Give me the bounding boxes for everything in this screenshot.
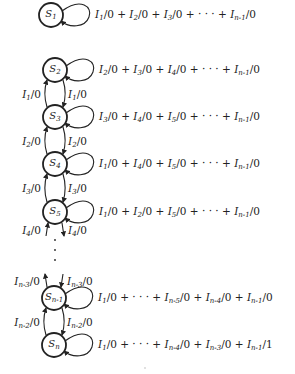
state-label: Sn [39, 338, 69, 350]
state-label: S5 [40, 205, 70, 217]
ellipsis: · · · [202, 205, 219, 217]
self-loop-label: I1/0 + · · · + In-4/0 + In-3/0 + In-1/1 [98, 338, 273, 350]
ellipsis: · · · [132, 338, 149, 350]
transition-label: I4/0 [22, 224, 41, 236]
ellipsis-dot [54, 259, 56, 261]
self-loop-label: I3/0 + I4/0 + I5/0 + · · · + In-1/0 [99, 110, 260, 122]
transition-arrow [63, 80, 65, 107]
transition-label: I3/0 [68, 182, 87, 194]
state-label: Sn-1 [39, 291, 69, 303]
ellipsis-dot [54, 239, 56, 241]
transition-arrow [44, 308, 46, 335]
transition-label: I3/0 [22, 182, 41, 194]
state-label: S3 [40, 110, 70, 122]
transition-label: In-2/0 [14, 316, 40, 328]
self-loop-label: I2/0 + I3/0 + I4/0 + · · · + In-1/0 [99, 63, 260, 75]
state-label: S2 [40, 63, 70, 75]
transition-arrow [45, 274, 47, 287]
ellipsis: · · · [198, 8, 215, 20]
state-label: S4 [40, 157, 70, 169]
transition-arrow [45, 174, 47, 202]
self-loop-label: I1/0 + I2/0 + I5/0 + · · · + In-1/0 [99, 205, 260, 217]
transition-label: I4/0 [68, 224, 87, 236]
transition-label: I2/0 [22, 135, 41, 147]
self-loop-label: I1/0 + I4/0 + I5/0 + · · · + In-1/0 [99, 157, 260, 169]
transition-arrow [63, 127, 65, 154]
transition-arrow [61, 274, 63, 287]
transition-label: I1/0 [22, 88, 41, 100]
transition-label: In-3/0 [14, 275, 40, 287]
transition-arrow [46, 223, 48, 236]
transition-arrow [62, 308, 64, 335]
transition-arrow [63, 174, 65, 202]
ellipsis: · · · [132, 291, 149, 303]
ellipsis: · · · [202, 63, 219, 75]
self-loop-label: I1/0 + I2/0 + I3/0 + · · · + In-1/0 [95, 8, 256, 20]
transition-label: I2/0 [68, 135, 87, 147]
state-diagram [0, 0, 295, 374]
self-loop-label: I1/0 + · · · + In-5/0 + In-4/0 + In-1/0 [98, 291, 273, 303]
transition-arrow [62, 223, 64, 236]
transition-label: In-2/0 [67, 316, 93, 328]
ellipsis-dot [54, 249, 56, 251]
transition-label: In-3/0 [67, 275, 93, 287]
transition-arrow [45, 127, 47, 154]
ellipsis: · · · [202, 157, 219, 169]
artifact-dot [144, 367, 146, 369]
state-label: S1 [36, 8, 66, 20]
transition-arrow [45, 80, 47, 107]
ellipsis: · · · [202, 110, 219, 122]
transition-label: I1/0 [68, 88, 87, 100]
